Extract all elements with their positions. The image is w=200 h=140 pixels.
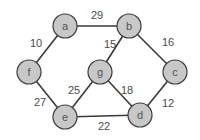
node-label-g: g (97, 66, 103, 78)
edge-weight-a-b: 29 (91, 9, 103, 21)
graph-diagram: 291015162725181222 abcdefg (0, 0, 200, 140)
node-c: c (163, 60, 187, 84)
edge-weight-f-e: 27 (34, 96, 46, 108)
edge-weight-g-e: 25 (68, 84, 80, 96)
edge-weight-e-d: 22 (98, 120, 110, 132)
node-label-e: e (62, 111, 68, 123)
edge-weight-a-f: 10 (30, 37, 42, 49)
node-label-b: b (126, 20, 132, 32)
edge-weight-b-c: 16 (162, 36, 174, 48)
node-label-a: a (62, 20, 69, 32)
node-f: f (17, 60, 41, 84)
node-d: d (128, 103, 152, 127)
node-e: e (53, 105, 77, 129)
nodes-layer: abcdefg (17, 14, 187, 129)
edge-weight-b-g: 15 (104, 38, 116, 50)
node-label-c: c (172, 66, 178, 78)
node-label-d: d (137, 109, 143, 121)
edge-weight-c-d: 12 (162, 97, 174, 109)
node-b: b (117, 14, 141, 38)
edge-weight-g-d: 18 (121, 84, 133, 96)
node-a: a (53, 14, 77, 38)
node-g: g (88, 60, 112, 84)
